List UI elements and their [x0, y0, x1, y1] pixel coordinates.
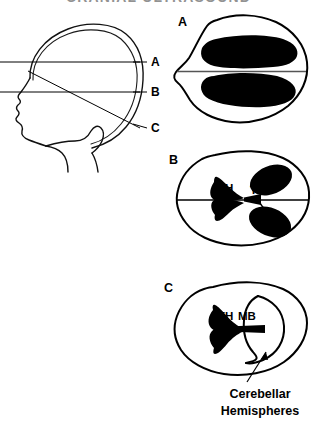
- section-label-c: C: [151, 121, 160, 135]
- jaw-and-neck-front: [46, 146, 68, 172]
- panel-a-ventricle-upper: [201, 35, 297, 68]
- panel-b-label-th: Th: [250, 184, 264, 196]
- panel-a: A: [174, 15, 307, 122]
- cerebellum-annotation-arrowhead: [261, 352, 268, 360]
- panel-b: B FH Th: [169, 151, 309, 245]
- panel-c-label-fh: FH: [218, 310, 233, 322]
- section-label-a: A: [151, 55, 160, 69]
- cerebellar-hemispheres-caption: Cerebellar Hemispheres: [205, 386, 315, 420]
- panel-b-letter: B: [169, 153, 178, 167]
- section-label-b: B: [151, 85, 160, 99]
- skull-inner-table: [33, 30, 137, 144]
- panel-a-letter: A: [178, 15, 187, 29]
- skull-outer-contour: [30, 24, 143, 148]
- panel-b-label-fh: FH: [218, 182, 233, 194]
- panel-b-right-lower-structure: [244, 201, 295, 243]
- caption-line-1: Cerebellar: [205, 386, 315, 403]
- caption-line-2: Hemispheres: [205, 403, 315, 420]
- face-profile: [16, 78, 46, 146]
- figure-root: CRANIAL ULTRASOUND: [0, 0, 317, 427]
- panel-c-label-mb: MB: [238, 310, 256, 322]
- figure-title: CRANIAL ULTRASOUND: [66, 0, 251, 5]
- lateral-head-profile: A B C: [0, 24, 160, 172]
- section-line-c: [28, 71, 140, 128]
- figure-title-band: CRANIAL ULTRASOUND: [0, 0, 317, 7]
- anatomical-diagram-canvas: A B C A B: [0, 0, 317, 427]
- panel-c: C FH MB: [164, 281, 307, 382]
- neck-back: [92, 153, 98, 172]
- panel-a-ventricle-lower: [201, 73, 296, 107]
- panel-c-letter: C: [164, 281, 173, 295]
- panel-b-frontal-horn-lower: [211, 199, 244, 221]
